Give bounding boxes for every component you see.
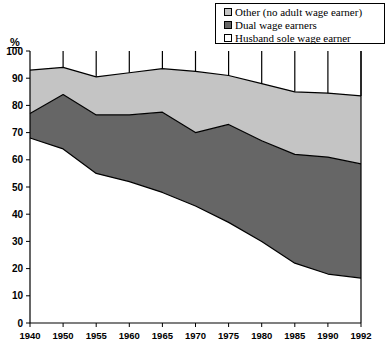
x-label-1965: 1965 <box>152 330 174 341</box>
x-label-1940: 1940 <box>19 330 40 341</box>
x-label-1955: 1955 <box>86 330 108 341</box>
x-label-1960: 1960 <box>119 330 140 341</box>
y-label-100: 100 <box>6 46 23 57</box>
y-label-80: 80 <box>12 100 24 111</box>
chart-screenshot: Other (no adult wage earner) Dual wage e… <box>0 0 391 353</box>
y-tick-labels-group: 1009080706050403020100 <box>6 46 23 329</box>
x-label-1980: 1980 <box>251 330 272 341</box>
y-label-40: 40 <box>12 209 24 220</box>
y-label-20: 20 <box>12 263 24 274</box>
y-label-70: 70 <box>12 127 24 138</box>
y-label-50: 50 <box>12 182 24 193</box>
x-label-1992: 1992 <box>350 330 371 341</box>
y-label-60: 60 <box>12 154 24 165</box>
y-label-0: 0 <box>17 318 23 329</box>
x-label-1990: 1990 <box>317 330 338 341</box>
y-label-10: 10 <box>12 290 24 301</box>
y-label-30: 30 <box>12 236 24 247</box>
chart-plot-area: 1009080706050403020100 19401950195519601… <box>0 0 391 353</box>
x-label-1975: 1975 <box>218 330 240 341</box>
x-label-1970: 1970 <box>185 330 206 341</box>
x-label-1950: 1950 <box>53 330 74 341</box>
y-label-90: 90 <box>12 73 24 84</box>
stacked-areas-group <box>30 67 361 323</box>
x-tick-labels-group: 1940195019551960196519701975198019851990… <box>19 330 371 341</box>
x-label-1985: 1985 <box>284 330 306 341</box>
